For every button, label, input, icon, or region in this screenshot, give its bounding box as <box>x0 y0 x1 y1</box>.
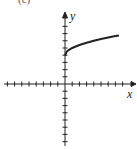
function-curve <box>65 36 119 56</box>
coordinate-plane <box>0 0 137 149</box>
y-axis-label: y <box>70 10 75 22</box>
x-axis-label: x <box>127 88 132 100</box>
axes <box>4 12 136 146</box>
